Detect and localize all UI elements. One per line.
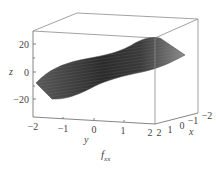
z-tick-label: 0 — [24, 67, 29, 78]
z-axis: 20 0 −20 z — [8, 31, 36, 117]
y-axis-label: y — [83, 134, 89, 145]
x-tick-label: 1 — [168, 124, 173, 135]
x-tick-label: 0 — [180, 120, 185, 131]
y-tick-label: 2 — [148, 127, 153, 138]
y-tick-label: −2 — [28, 121, 39, 132]
surface-plot: 20 0 −20 z −2 −1 0 1 2 y 2 1 0 −1 −2 x f… — [0, 0, 216, 169]
plot-caption: fxx — [101, 148, 111, 163]
z-tick-label: 20 — [19, 39, 29, 50]
y-tick-label: −1 — [58, 123, 69, 134]
x-axis-label: x — [188, 126, 194, 137]
caption-subscript: xx — [103, 155, 111, 163]
x-axis: 2 1 0 −1 −2 x — [155, 110, 212, 138]
x-tick-label: −1 — [188, 115, 199, 126]
svg-text:fxx: fxx — [101, 148, 111, 163]
y-tick-label: 0 — [92, 124, 97, 135]
surface-mesh — [36, 37, 185, 99]
z-tick-label: −20 — [13, 94, 29, 105]
x-tick-label: −2 — [202, 110, 213, 121]
y-tick-label: 1 — [121, 125, 126, 136]
z-axis-label: z — [8, 66, 13, 77]
x-tick-label: 2 — [157, 127, 162, 138]
y-axis: −2 −1 0 1 2 y — [28, 117, 155, 145]
